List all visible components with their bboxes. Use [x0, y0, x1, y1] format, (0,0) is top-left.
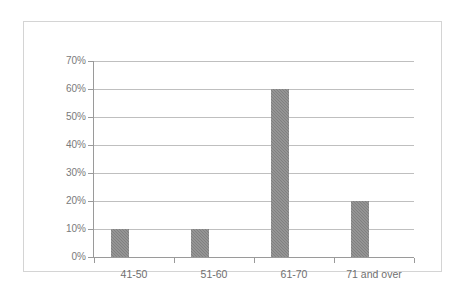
x-axis-category-label: 61-70 [254, 268, 334, 280]
y-axis-tick [88, 145, 93, 146]
y-axis-tick [88, 173, 93, 174]
x-axis-category-label: 41-50 [94, 268, 174, 280]
x-axis-tick [94, 258, 95, 263]
chart-frame: 0%10%20%30%40%50%60%70% 41-5051-6061-707… [23, 21, 442, 272]
y-axis-tick-label: 60% [46, 84, 86, 94]
y-axis-tick [88, 229, 93, 230]
y-axis-tick [88, 89, 93, 90]
x-axis-tick [254, 258, 255, 263]
y-axis-tick [88, 201, 93, 202]
x-axis-tick [414, 258, 415, 263]
y-axis-tick-label: 30% [46, 168, 86, 178]
y-axis-tick-label: 10% [46, 224, 86, 234]
y-axis-tick [88, 117, 93, 118]
bar[interactable] [111, 229, 129, 257]
gridline [94, 145, 414, 146]
gridline [94, 89, 414, 90]
y-axis-tick-label: 40% [46, 140, 86, 150]
gridline [94, 117, 414, 118]
x-axis-tick [174, 258, 175, 263]
y-axis-tick-label: 0% [46, 252, 86, 262]
gridline [94, 173, 414, 174]
x-axis-tick [334, 258, 335, 263]
bar[interactable] [191, 229, 209, 257]
plot-area [94, 61, 414, 257]
bar[interactable] [351, 201, 369, 257]
y-axis-tick [88, 257, 93, 258]
x-axis-category-label: 71 and over [334, 268, 414, 280]
x-axis-labels: 41-5051-6061-7071 and over [94, 268, 414, 284]
y-axis-tick [88, 61, 93, 62]
bar[interactable] [271, 89, 289, 257]
x-axis-category-label: 51-60 [174, 268, 254, 280]
y-axis-tick-label: 20% [46, 196, 86, 206]
y-axis-tick-label: 50% [46, 112, 86, 122]
value-axis-line [93, 61, 94, 258]
gridline [94, 61, 414, 62]
y-axis-tick-label: 70% [46, 56, 86, 66]
y-axis-labels: 0%10%20%30%40%50%60%70% [42, 22, 86, 290]
